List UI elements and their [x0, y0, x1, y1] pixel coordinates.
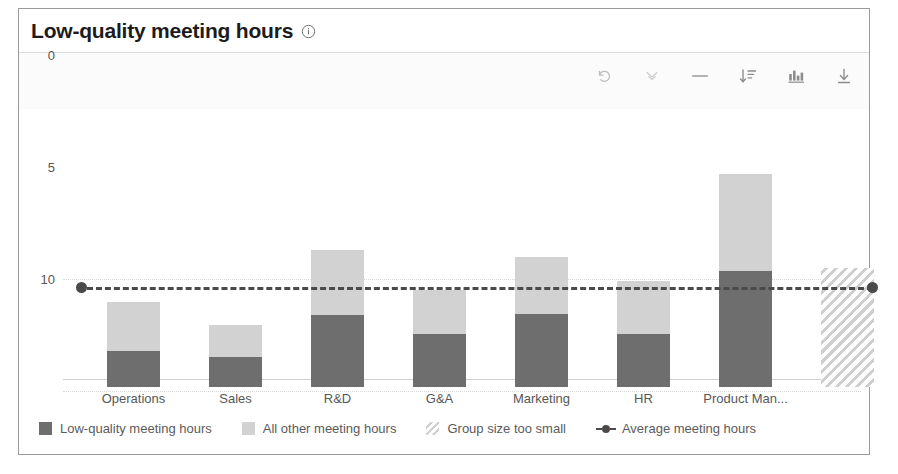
download-icon[interactable]	[833, 65, 855, 87]
average-marker-left	[76, 282, 87, 293]
legend-average-swatch	[596, 422, 616, 435]
double-chevron-down-icon[interactable]	[641, 65, 663, 87]
bar-group[interactable]	[209, 325, 262, 387]
legend-all-other-swatch	[242, 422, 255, 435]
average-marker-right	[867, 282, 878, 293]
minus-icon[interactable]	[689, 65, 711, 87]
bar-segment-low-quality[interactable]	[515, 314, 568, 387]
x-axis-labels: OperationsSalesR&DG&AMarketingHRProduct …	[19, 391, 869, 415]
bar-group[interactable]	[311, 250, 364, 387]
legend-all-other-label: All other meeting hours	[263, 421, 397, 436]
bar-group[interactable]	[617, 281, 670, 387]
chart-plot-area: 10 5 0	[19, 109, 869, 409]
x-axis-label: Operations	[79, 391, 189, 406]
y-tick-5: 5	[21, 160, 55, 175]
legend-average-label: Average meeting hours	[622, 421, 756, 436]
chart-toolbar	[593, 65, 855, 87]
x-axis-label: HR	[589, 391, 699, 406]
bar-segment-all-other[interactable]	[107, 302, 160, 351]
bar-chart-icon[interactable]	[785, 65, 807, 87]
legend-all-other[interactable]: All other meeting hours	[242, 421, 397, 436]
average-reference-line	[87, 287, 873, 290]
info-circle-icon[interactable]	[301, 24, 316, 39]
y-tick-0: 0	[21, 48, 55, 63]
toolbar-strip	[19, 53, 869, 109]
bar-segment-all-other[interactable]	[209, 325, 262, 356]
bar-segment-low-quality[interactable]	[107, 351, 160, 387]
y-tick-10: 10	[21, 272, 55, 287]
bar-segment-all-other[interactable]	[413, 290, 466, 335]
legend-low-quality-swatch	[39, 422, 52, 435]
bar-segment-low-quality[interactable]	[617, 334, 670, 387]
legend-low-quality[interactable]: Low-quality meeting hours	[39, 421, 212, 436]
bar-segment-low-quality[interactable]	[413, 334, 466, 387]
bar-segment-all-other[interactable]	[311, 250, 364, 315]
sort-descending-icon[interactable]	[737, 65, 759, 87]
chart-card: Low-quality meeting hours	[18, 8, 870, 455]
legend-group-too-small-label: Group size too small	[447, 421, 566, 436]
x-axis-label: R&D	[283, 391, 393, 406]
card-header: Low-quality meeting hours	[19, 9, 869, 53]
chart-legend: Low-quality meeting hoursAll other meeti…	[39, 421, 786, 436]
bar-segment-low-quality[interactable]	[209, 357, 262, 387]
bar-group[interactable]	[413, 290, 466, 387]
x-axis-label: G&A	[385, 391, 495, 406]
legend-average[interactable]: Average meeting hours	[596, 421, 756, 436]
bar-segment-all-other[interactable]	[719, 174, 772, 270]
bar-segment-all-other[interactable]	[515, 257, 568, 314]
x-axis-label: Sales	[181, 391, 291, 406]
page-title: Low-quality meeting hours	[31, 19, 293, 43]
x-axis-label: Product Man...	[691, 391, 801, 406]
legend-group-too-small[interactable]: Group size too small	[426, 421, 566, 436]
legend-group-too-small-swatch	[426, 422, 439, 435]
legend-low-quality-label: Low-quality meeting hours	[60, 421, 212, 436]
bar-group[interactable]	[107, 302, 160, 387]
x-axis-label: Marketing	[487, 391, 597, 406]
bar-group[interactable]	[719, 174, 772, 387]
bar-segment-low-quality[interactable]	[311, 315, 364, 387]
bar-group[interactable]	[515, 257, 568, 387]
undo-icon[interactable]	[593, 65, 615, 87]
